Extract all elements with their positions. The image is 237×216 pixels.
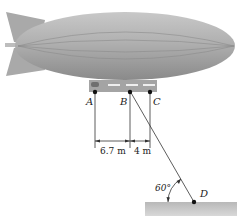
label-a: A	[86, 97, 93, 107]
angle-label: 60°	[155, 184, 171, 193]
dimension-bc: 4 m	[134, 147, 151, 156]
point-d	[192, 200, 196, 204]
blimp-hull	[15, 12, 235, 80]
point-c	[148, 90, 152, 94]
point-b	[128, 90, 132, 94]
point-a	[93, 90, 97, 94]
label-d: D	[200, 189, 208, 199]
blimp-diagram	[0, 0, 237, 216]
label-c: C	[153, 97, 161, 107]
ground	[145, 202, 237, 216]
dimension-ab: 6.7 m	[100, 147, 126, 156]
label-b: B	[120, 97, 127, 107]
